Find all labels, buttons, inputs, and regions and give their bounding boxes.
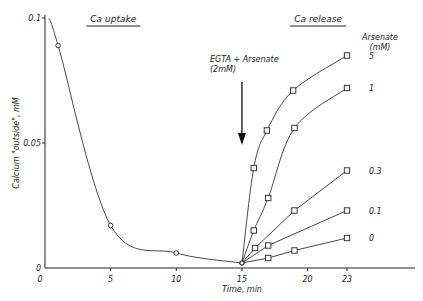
legend-entry-5: 5 xyxy=(369,52,374,61)
x-tick-label: 0 xyxy=(37,275,42,284)
data-point-circle xyxy=(174,251,179,256)
data-point-circle xyxy=(56,43,61,48)
data-point-circle xyxy=(108,223,113,228)
annotation-text: (2mM) xyxy=(210,65,236,74)
x-tick-label: 10 xyxy=(171,275,181,284)
legend-entry-0.3: 0.3 xyxy=(369,167,382,176)
legend-entry-1: 1 xyxy=(369,84,374,93)
arrow-down-icon xyxy=(238,133,246,145)
x-axis-label: Time, min xyxy=(222,285,262,294)
legend-entry-0.1: 0.1 xyxy=(369,207,382,216)
data-point-square xyxy=(266,255,271,260)
data-point-square xyxy=(344,208,349,213)
section-label-uptake: Ca uptake xyxy=(90,14,136,24)
chart: 00.050.10510152023Time, minCalcium "outs… xyxy=(0,0,423,301)
data-point-square xyxy=(292,208,297,213)
legend-entry-0: 0 xyxy=(369,234,374,243)
x-tick-label: 5 xyxy=(108,275,113,284)
legend-title: Arsenate xyxy=(361,33,398,42)
data-point-square xyxy=(251,165,256,170)
y-axis-label: Calcium "outside", mM xyxy=(12,97,21,188)
data-point-square xyxy=(344,53,349,58)
data-point-square xyxy=(266,195,271,200)
data-point-square xyxy=(344,85,349,90)
x-tick-label: 20 xyxy=(303,275,313,284)
y-tick-label: 0 xyxy=(36,264,41,273)
x-tick-label: 15 xyxy=(237,275,247,284)
data-point-square xyxy=(266,243,271,248)
y-tick-label: 0.1 xyxy=(28,14,41,23)
section-label-release: Ca release xyxy=(294,14,342,24)
x-tick-label: 23 xyxy=(342,275,352,284)
data-point-square xyxy=(292,248,297,253)
data-point-square xyxy=(251,228,256,233)
data-point-square xyxy=(344,168,349,173)
data-point-square xyxy=(252,245,257,250)
series-line-5 xyxy=(242,56,347,264)
data-point-square xyxy=(264,128,269,133)
series-line-1 xyxy=(242,88,347,263)
data-point-circle xyxy=(240,261,244,265)
data-point-square xyxy=(292,125,297,130)
series-line-0.1 xyxy=(242,211,347,264)
annotation-text: EGTA + Arsenate xyxy=(210,55,279,64)
data-point-square xyxy=(344,235,349,240)
data-point-square xyxy=(290,88,295,93)
y-tick-label: 0.05 xyxy=(23,139,41,148)
chart-canvas: 00.050.10510152023Time, minCalcium "outs… xyxy=(0,0,423,301)
